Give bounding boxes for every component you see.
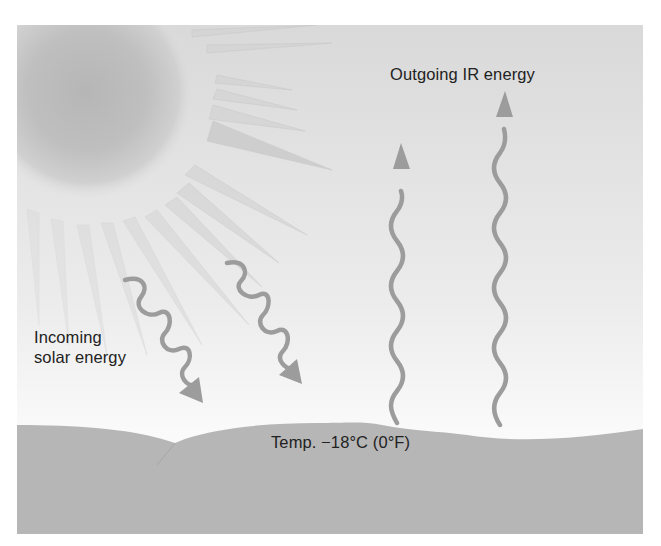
surface-temperature-label: Temp. −18°C (0°F)	[271, 432, 410, 452]
diagram-canvas	[17, 25, 643, 534]
incoming-solar-label-line1: Incoming	[34, 327, 126, 347]
incoming-solar-label: Incoming solar energy	[34, 327, 126, 367]
incoming-solar-label-line2: solar energy	[34, 347, 126, 367]
greenhouse-diagram	[17, 25, 643, 534]
outgoing-ir-label: Outgoing IR energy	[390, 64, 535, 84]
